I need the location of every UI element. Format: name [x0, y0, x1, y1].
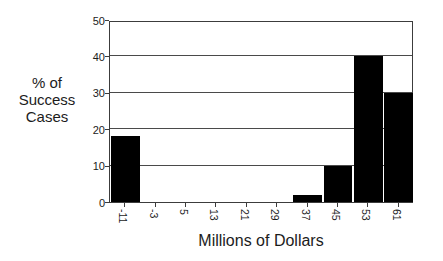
x-tick-label: 5: [179, 209, 190, 215]
x-tick-mark: [155, 203, 156, 207]
x-tick-label: 21: [239, 209, 250, 221]
x-tick-mark: [276, 203, 277, 207]
x-tick-mark: [337, 203, 338, 207]
x-axis-title: Millions of Dollars: [109, 232, 413, 250]
bar: [324, 166, 353, 202]
bars-layer: [110, 22, 412, 202]
x-tick-label: 53: [361, 209, 372, 221]
bar: [293, 195, 322, 202]
x-tick-label: 29: [270, 209, 281, 221]
x-tick-mark: [124, 203, 125, 207]
y-tick-label: 50: [77, 16, 105, 27]
x-tick-label: 45: [331, 209, 342, 221]
y-tick-label: 30: [77, 88, 105, 99]
x-tick-mark: [185, 203, 186, 207]
x-tick-mark: [307, 203, 308, 207]
x-tick-label: 13: [209, 209, 220, 221]
x-tick-mark: [367, 203, 368, 207]
bar: [354, 56, 383, 202]
y-tick-label: 10: [77, 161, 105, 172]
x-tick-mark: [215, 203, 216, 207]
y-tick-label: 20: [77, 125, 105, 136]
bar: [384, 93, 413, 202]
x-tick-label: 61: [391, 209, 402, 221]
x-tick-mark: [398, 203, 399, 207]
histogram-chart: % of Success Cases 01020304050 -11-35132…: [0, 0, 443, 261]
y-tick-label: 40: [77, 52, 105, 63]
y-tick-label: 0: [77, 198, 105, 209]
x-tick-label: -3: [148, 209, 159, 218]
x-tick-label: -11: [118, 209, 129, 223]
x-tick-label: 37: [300, 209, 311, 221]
y-axis-ticks: 01020304050: [75, 21, 105, 203]
plot-area: [109, 21, 413, 203]
x-tick-mark: [246, 203, 247, 207]
bar: [111, 136, 140, 202]
